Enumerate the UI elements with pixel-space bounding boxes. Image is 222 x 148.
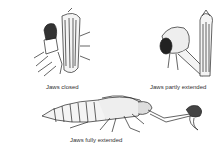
caption-jaws-fully-extended: Jaws fully extended xyxy=(70,137,122,143)
figure-jaws-fully-extended xyxy=(40,94,212,134)
figure-jaws-partly-extended xyxy=(150,6,220,78)
figure-jaws-closed xyxy=(34,6,94,78)
nymph-head-closed-illustration xyxy=(34,6,94,78)
caption-jaws-closed: Jaws closed xyxy=(46,84,79,90)
caption-jaws-partly-extended: Jaws partly extended xyxy=(150,84,206,90)
nymph-body-fully-extended-illustration xyxy=(40,94,212,134)
nymph-head-partly-illustration xyxy=(150,6,220,78)
